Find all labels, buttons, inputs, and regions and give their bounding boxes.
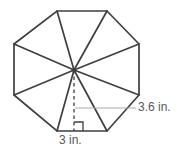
- apothem-length-label: 3.6 in.: [138, 101, 171, 113]
- geometry-figure: 3.6 in. 3 in.: [0, 0, 181, 155]
- side-length-label: 3 in.: [59, 134, 82, 146]
- octagon-diagram: [0, 0, 181, 155]
